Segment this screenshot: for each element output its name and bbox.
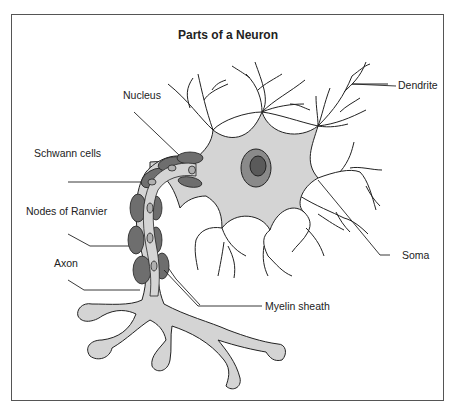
label-nodes-of-ranvier: Nodes of Ranvier [26, 205, 107, 217]
label-axon: Axon [54, 257, 78, 269]
dendrites-right [300, 142, 382, 234]
label-schwann-cells: Schwann cells [34, 147, 101, 159]
label-myelin-sheath: Myelin sheath [265, 300, 330, 312]
diagram-title: Parts of a Neuron [0, 28, 456, 42]
nucleolus [250, 156, 266, 176]
label-soma: Soma [402, 249, 429, 261]
label-dendrite: Dendrite [398, 79, 438, 91]
label-nucleus: Nucleus [123, 89, 161, 101]
dendrites-top [168, 62, 388, 130]
